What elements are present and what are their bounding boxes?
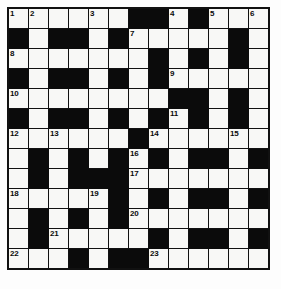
open-cell[interactable]: 4 (169, 8, 189, 29)
open-cell[interactable] (89, 149, 109, 169)
open-cell[interactable] (209, 129, 229, 149)
open-cell[interactable] (49, 8, 69, 29)
open-cell[interactable]: 13 (49, 129, 69, 149)
open-cell[interactable] (209, 169, 229, 189)
open-cell[interactable] (89, 109, 109, 129)
open-cell[interactable] (109, 49, 129, 69)
open-cell[interactable]: 10 (8, 89, 29, 109)
open-cell[interactable] (29, 109, 49, 129)
open-cell[interactable] (49, 149, 69, 169)
open-cell[interactable] (89, 29, 109, 49)
open-cell[interactable] (29, 49, 49, 69)
open-cell[interactable] (129, 229, 149, 249)
open-cell[interactable] (189, 209, 209, 229)
open-cell[interactable] (209, 89, 229, 109)
open-cell[interactable] (229, 149, 249, 169)
open-cell[interactable] (8, 229, 29, 249)
open-cell[interactable]: 15 (229, 129, 249, 149)
open-cell[interactable] (29, 129, 49, 149)
open-cell[interactable] (8, 209, 29, 229)
open-cell[interactable] (249, 69, 270, 89)
open-cell[interactable] (109, 8, 129, 29)
open-cell[interactable] (189, 69, 209, 89)
open-cell[interactable] (129, 49, 149, 69)
open-cell[interactable] (169, 169, 189, 189)
open-cell[interactable] (229, 69, 249, 89)
open-cell[interactable] (189, 29, 209, 49)
open-cell[interactable] (249, 49, 270, 69)
open-cell[interactable] (129, 89, 149, 109)
open-cell[interactable] (89, 229, 109, 249)
open-cell[interactable]: 11 (169, 109, 189, 129)
open-cell[interactable] (169, 209, 189, 229)
crossword-grid[interactable]: 1234567891011121314151617181920212223 (7, 7, 270, 270)
open-cell[interactable]: 5 (209, 8, 229, 29)
open-cell[interactable]: 8 (8, 49, 29, 69)
open-cell[interactable] (169, 249, 189, 270)
open-cell[interactable] (49, 189, 69, 209)
open-cell[interactable] (249, 129, 270, 149)
open-cell[interactable] (69, 189, 89, 209)
open-cell[interactable] (169, 149, 189, 169)
open-cell[interactable] (229, 8, 249, 29)
open-cell[interactable]: 6 (249, 8, 270, 29)
open-cell[interactable]: 22 (8, 249, 29, 270)
open-cell[interactable] (109, 229, 129, 249)
open-cell[interactable] (169, 229, 189, 249)
open-cell[interactable]: 7 (129, 29, 149, 49)
open-cell[interactable] (8, 149, 29, 169)
open-cell[interactable] (249, 169, 270, 189)
open-cell[interactable]: 12 (8, 129, 29, 149)
open-cell[interactable]: 19 (89, 189, 109, 209)
open-cell[interactable] (229, 189, 249, 209)
open-cell[interactable] (49, 249, 69, 270)
open-cell[interactable] (89, 49, 109, 69)
open-cell[interactable] (209, 29, 229, 49)
open-cell[interactable]: 1 (8, 8, 29, 29)
open-cell[interactable]: 23 (149, 249, 169, 270)
open-cell[interactable]: 14 (149, 129, 169, 149)
open-cell[interactable] (169, 129, 189, 149)
open-cell[interactable]: 20 (129, 209, 149, 229)
open-cell[interactable]: 16 (129, 149, 149, 169)
open-cell[interactable] (29, 69, 49, 89)
open-cell[interactable] (209, 49, 229, 69)
open-cell[interactable] (69, 8, 89, 29)
open-cell[interactable] (149, 209, 169, 229)
open-cell[interactable] (229, 229, 249, 249)
open-cell[interactable] (109, 89, 129, 109)
open-cell[interactable] (49, 169, 69, 189)
open-cell[interactable] (49, 209, 69, 229)
open-cell[interactable] (89, 209, 109, 229)
open-cell[interactable] (129, 189, 149, 209)
open-cell[interactable] (69, 229, 89, 249)
open-cell[interactable]: 17 (129, 169, 149, 189)
open-cell[interactable]: 3 (89, 8, 109, 29)
open-cell[interactable] (209, 249, 229, 270)
open-cell[interactable] (149, 89, 169, 109)
open-cell[interactable] (49, 89, 69, 109)
open-cell[interactable] (29, 29, 49, 49)
open-cell[interactable] (249, 249, 270, 270)
open-cell[interactable] (149, 169, 169, 189)
open-cell[interactable] (69, 49, 89, 69)
open-cell[interactable] (169, 29, 189, 49)
open-cell[interactable] (229, 169, 249, 189)
open-cell[interactable] (89, 89, 109, 109)
open-cell[interactable] (189, 129, 209, 149)
open-cell[interactable] (249, 209, 270, 229)
open-cell[interactable] (29, 249, 49, 270)
open-cell[interactable] (29, 89, 49, 109)
open-cell[interactable] (29, 189, 49, 209)
open-cell[interactable]: 2 (29, 8, 49, 29)
open-cell[interactable] (249, 109, 270, 129)
open-cell[interactable] (149, 29, 169, 49)
open-cell[interactable] (209, 69, 229, 89)
open-cell[interactable] (209, 209, 229, 229)
open-cell[interactable] (129, 109, 149, 129)
open-cell[interactable] (249, 29, 270, 49)
open-cell[interactable] (49, 49, 69, 69)
open-cell[interactable] (229, 249, 249, 270)
open-cell[interactable] (89, 249, 109, 270)
open-cell[interactable] (249, 89, 270, 109)
